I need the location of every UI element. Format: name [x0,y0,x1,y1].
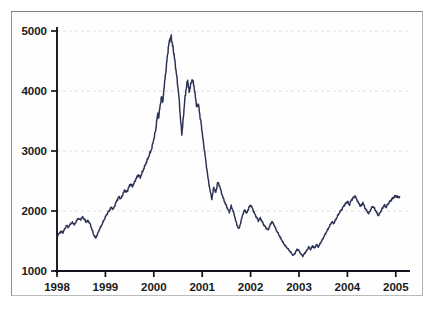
series-line-index [57,35,400,257]
y-tick-labels: 10002000300040005000 [21,25,47,277]
x-tick-label: 2001 [189,281,215,293]
y-tick-label: 2000 [21,205,47,217]
x-tick-label: 2003 [286,281,312,293]
y-tick-label: 3000 [21,145,47,157]
y-tick-label: 4000 [21,85,47,97]
data-series-group [57,35,400,257]
x-tick-label: 2005 [383,281,409,293]
line-chart: 10002000300040005000 1998199920002001200… [0,0,436,313]
x-tick-label: 1998 [44,281,70,293]
gridlines-group [57,31,411,271]
y-axis-group: 10002000300040005000 [21,25,57,277]
y-tick-label: 5000 [21,25,47,37]
x-tick-label: 2002 [238,281,264,293]
x-tick-label: 1999 [93,281,119,293]
x-tick-label: 2000 [141,281,167,293]
x-tick-label: 2004 [335,281,361,293]
y-tick-label: 1000 [21,265,47,277]
x-tick-labels: 19981999200020012002200320042005 [44,281,409,293]
chart-figure: 10002000300040005000 1998199920002001200… [0,0,436,313]
x-axis-group: 19981999200020012002200320042005 [44,271,409,293]
